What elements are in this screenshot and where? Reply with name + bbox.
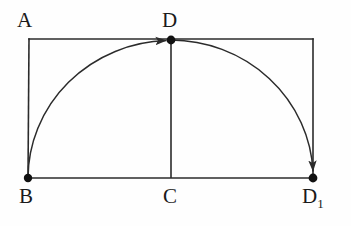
vertex-label-d1-base: D (302, 184, 317, 208)
vertex-label-d1: D1 (302, 186, 324, 210)
segment-left-edge (28, 39, 29, 178)
arc-b-to-d (28, 41, 167, 178)
vertex-label-d1-subscript: 1 (317, 196, 324, 211)
geometry-diagram: A D B C D1 (0, 0, 351, 226)
point-d-dot (167, 36, 176, 45)
point-b-dot (24, 174, 32, 182)
vertex-label-b: B (19, 186, 33, 207)
point-d1-dot (309, 174, 318, 183)
vertex-label-a: A (17, 10, 32, 31)
vertex-label-d: D (162, 10, 177, 31)
arc-d-to-d1 (171, 40, 313, 172)
vertex-label-c: C (163, 186, 177, 207)
